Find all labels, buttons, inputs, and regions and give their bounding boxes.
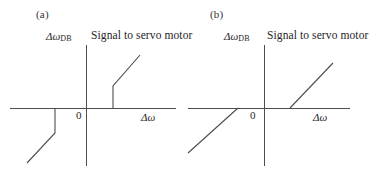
panel-b: (b) ΔωDB Signal to servo motor 0 Δω [194,0,388,179]
y-axis-label-b: ΔωDB [224,31,250,43]
plot-a [0,0,194,179]
y-axis-label-a: ΔωDB [46,31,72,43]
curve-a-positive [113,55,140,108]
origin-label-a: 0 [76,110,82,121]
curve-b-positive [290,63,333,108]
y-axis-label-a-sub: DB [60,34,72,43]
y-axis-label-b-sub: DB [238,34,250,43]
figure-container: (a) ΔωDB Signal to servo motor 0 Δω (b) [0,0,388,179]
panel-a: (a) ΔωDB Signal to servo motor 0 Δω [0,0,194,179]
curve-a-negative [27,108,55,163]
origin-label-b: 0 [250,110,256,121]
annotation-signal-to-servo-motor-b: Signal to servo motor [267,30,368,42]
x-axis-label-a: Δω [141,112,155,123]
y-axis-label-b-main: Δω [224,30,238,42]
plot-b [194,0,388,179]
y-axis-label-a-main: Δω [46,30,60,42]
curve-b-negative [188,108,238,153]
x-axis-label-b: Δω [313,112,327,123]
annotation-signal-to-servo-motor-a: Signal to servo motor [91,30,192,42]
